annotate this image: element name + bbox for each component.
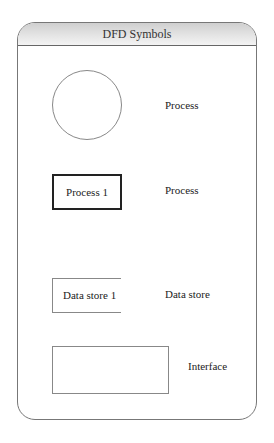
process-rectangle-label: Process [165,184,199,196]
process-circle-label: Process [165,99,199,111]
process-rectangle-symbol: Process 1 [52,174,122,210]
panel-header: DFD Symbols [18,23,256,46]
dfd-symbols-panel: DFD Symbols Process Process 1 Process Da… [17,22,257,420]
data-store-symbol: Data store 1 [52,278,121,313]
interface-label: Interface [188,360,227,372]
data-store-label: Data store [165,288,210,300]
interface-symbol [52,346,169,394]
process-circle-symbol [52,70,122,140]
